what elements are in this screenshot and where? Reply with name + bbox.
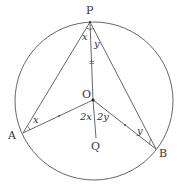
circle-angle-diagram: P O A B Q x y x y 2x 2y — [0, 0, 182, 187]
angle-arc-a — [28, 126, 31, 130]
point-p-dot — [89, 21, 91, 23]
tick-oa — [58, 115, 60, 117]
label-o: O — [82, 88, 91, 101]
angle-arc-b — [150, 139, 151, 145]
angle-label-boq: 2y — [96, 111, 109, 122]
center-dot — [92, 99, 95, 102]
label-q: Q — [91, 140, 100, 153]
angle-label-pao: x — [33, 114, 39, 125]
label-b: B — [159, 147, 167, 160]
segment-oq — [93, 100, 96, 138]
angle-label-aoq: 2x — [79, 111, 92, 122]
tick-ob — [124, 124, 126, 126]
label-a: A — [7, 129, 17, 142]
angle-label-pbo: y — [136, 125, 143, 136]
angle-label-apo: x — [82, 31, 88, 42]
label-p: P — [86, 4, 94, 17]
angle-label-bpo: y — [93, 38, 100, 49]
